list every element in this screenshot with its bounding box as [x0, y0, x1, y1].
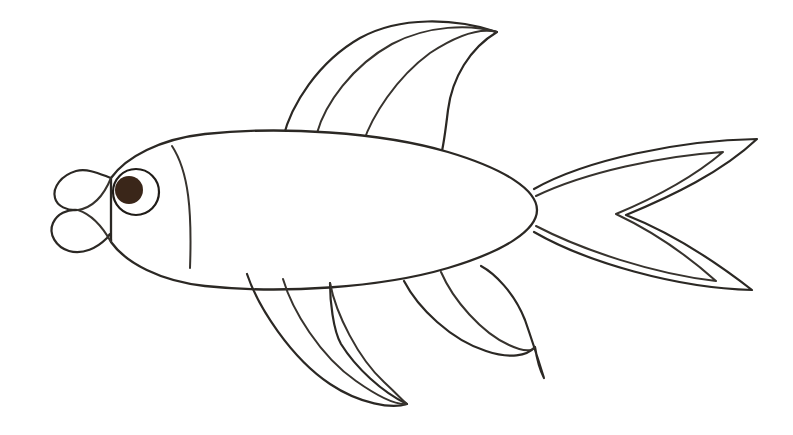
eye-group: [113, 169, 159, 215]
drawing-canvas: [0, 0, 793, 435]
fish-line-drawing: [0, 0, 793, 435]
eye-pupil: [115, 176, 143, 204]
